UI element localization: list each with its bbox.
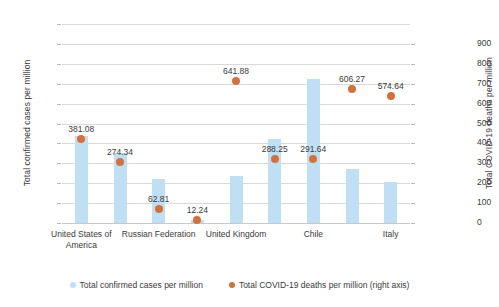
legend-item-cases: Total confirmed cases per million — [70, 280, 203, 290]
gridline — [62, 104, 410, 105]
tick-mark — [57, 203, 61, 204]
tick-mark — [57, 104, 61, 105]
data-point-marker — [309, 155, 317, 163]
tick-mark — [411, 203, 415, 204]
dot-marker-icon — [229, 282, 235, 288]
tick-mark — [57, 223, 61, 224]
y-tick-right: 0 — [477, 218, 499, 227]
tick-mark — [57, 163, 61, 164]
y-tick-right: 600 — [477, 99, 499, 108]
tick-mark — [57, 143, 61, 144]
y-tick-right: 500 — [477, 119, 499, 128]
data-point-marker — [271, 155, 279, 163]
tick-mark — [411, 223, 415, 224]
gridline — [62, 44, 410, 45]
bar — [230, 176, 243, 223]
x-axis-label: Italy — [346, 229, 436, 240]
legend-label-deaths: Total COVID-19 deaths per million (right… — [239, 280, 410, 290]
bar-swatch-icon — [70, 282, 76, 288]
tick-mark — [57, 64, 61, 65]
data-point-label: 274.34 — [107, 147, 133, 157]
gridline — [62, 223, 410, 224]
y-tick-right: 100 — [477, 198, 499, 207]
bar — [384, 182, 397, 223]
tick-mark — [411, 84, 415, 85]
data-point-marker — [387, 92, 395, 100]
tick-mark — [411, 104, 415, 105]
data-point-marker — [232, 77, 240, 85]
data-point-label: 574.64 — [378, 81, 404, 91]
tick-mark — [57, 44, 61, 45]
data-point-label: 381.08 — [68, 124, 94, 134]
legend-label-cases: Total confirmed cases per million — [80, 280, 203, 290]
tick-mark — [411, 124, 415, 125]
data-point-label: 288.25 — [262, 144, 288, 154]
tick-mark — [411, 44, 415, 45]
tick-mark — [57, 183, 61, 184]
y-tick-right: 800 — [477, 59, 499, 68]
data-point-label: 291.64 — [300, 144, 326, 154]
gridline — [62, 64, 410, 65]
tick-mark — [411, 183, 415, 184]
tick-mark — [411, 64, 415, 65]
y-tick-right: 700 — [477, 79, 499, 88]
y-tick-right: 200 — [477, 178, 499, 187]
data-point-label: 641.88 — [223, 66, 249, 76]
y-tick-right: 900 — [477, 39, 499, 48]
data-point-label: 12.24 — [187, 205, 208, 215]
y-tick-right: 300 — [477, 158, 499, 167]
gridline — [62, 24, 410, 25]
data-point-label: 62.81 — [148, 194, 169, 204]
tick-mark — [57, 24, 61, 25]
gridline — [62, 143, 410, 144]
tick-mark — [57, 124, 61, 125]
bar — [75, 136, 88, 223]
plot-area: 20,00018,00016,00014,00012,00010,0008,00… — [62, 24, 410, 223]
data-point-marker — [348, 85, 356, 93]
y-tick-right: 400 — [477, 138, 499, 147]
tick-mark — [411, 163, 415, 164]
gridline — [62, 124, 410, 125]
y-axis-left-title: Total confirmed cases per million — [22, 33, 32, 213]
bar — [346, 169, 359, 223]
chart-legend: Total confirmed cases per million Total … — [0, 280, 479, 290]
tick-mark — [57, 84, 61, 85]
legend-item-deaths: Total COVID-19 deaths per million (right… — [229, 280, 410, 290]
tick-mark — [411, 143, 415, 144]
data-point-marker — [155, 205, 163, 213]
data-point-label: 606.27 — [339, 74, 365, 84]
